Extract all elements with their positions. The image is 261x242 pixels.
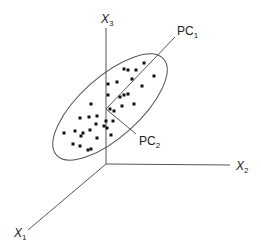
pc1-label: PC1 <box>177 24 198 40</box>
data-ellipse <box>36 37 183 178</box>
pc2-label: PC2 <box>139 134 160 150</box>
data-point <box>95 123 98 126</box>
pc1-axis <box>106 37 175 109</box>
data-point <box>133 103 136 106</box>
data-point <box>105 120 108 123</box>
data-point <box>135 69 138 72</box>
data-point <box>123 68 126 71</box>
data-point <box>90 103 93 106</box>
pc2-axis <box>106 109 136 134</box>
data-point <box>110 134 113 137</box>
x1-axis <box>28 164 106 230</box>
data-point <box>127 69 130 72</box>
data-point <box>153 75 156 78</box>
data-point <box>143 62 146 65</box>
data-point <box>141 85 144 88</box>
x1-label: X1 <box>14 226 26 242</box>
data-point <box>89 129 92 132</box>
data-point <box>103 125 106 128</box>
data-point <box>87 149 90 152</box>
data-point <box>131 78 134 81</box>
data-point <box>72 143 75 146</box>
data-point <box>82 132 85 135</box>
data-point <box>112 120 115 123</box>
data-point <box>116 81 119 84</box>
x2-label: X2 <box>236 159 248 175</box>
data-point <box>121 105 124 108</box>
data-point <box>109 108 112 111</box>
data-point <box>123 94 126 97</box>
data-point <box>79 117 82 120</box>
diagram-canvas <box>0 0 261 242</box>
data-point <box>79 145 82 148</box>
data-point <box>88 116 91 119</box>
x3-label: X3 <box>101 12 113 28</box>
data-point <box>107 83 110 86</box>
data-point <box>96 137 99 140</box>
data-point <box>74 130 77 133</box>
pca-diagram: X3 PC1 PC2 X2 X1 <box>0 0 261 242</box>
data-point <box>80 135 83 138</box>
data-point <box>106 127 109 130</box>
data-point <box>63 132 66 135</box>
data-point <box>90 148 93 151</box>
data-point <box>119 96 122 99</box>
data-point <box>113 110 116 113</box>
data-point <box>127 93 130 96</box>
x2-axis <box>106 164 230 165</box>
data-point <box>96 115 99 118</box>
data-point <box>107 94 110 97</box>
